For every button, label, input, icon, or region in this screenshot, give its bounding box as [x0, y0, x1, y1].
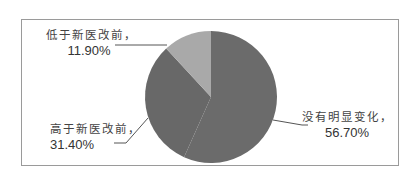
label-no-change-category: 没有明显变化，	[300, 110, 394, 125]
label-higher: 高于新医改前， 31.40%	[46, 122, 132, 152]
label-lower-value: 11.90%	[46, 43, 132, 58]
label-no-change-value: 56.70%	[300, 125, 394, 140]
label-lower: 低于新医改前， 11.90%	[46, 28, 132, 58]
label-higher-value: 31.40%	[46, 137, 132, 152]
label-higher-category: 高于新医改前，	[46, 122, 132, 137]
label-lower-category: 低于新医改前，	[46, 28, 132, 43]
label-no-change: 没有明显变化， 56.70%	[300, 110, 394, 140]
